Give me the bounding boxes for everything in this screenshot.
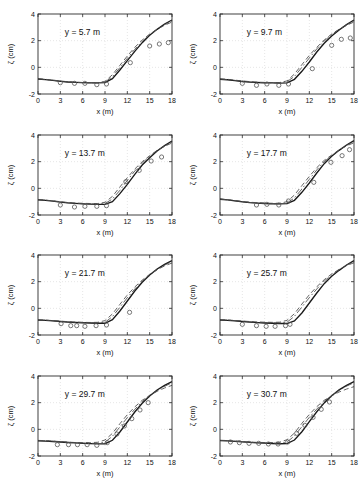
x-tick-label: 15	[328, 218, 336, 225]
y-tick-label: 2	[213, 399, 217, 406]
panel-annotation: y = 21.7 m	[65, 268, 105, 278]
x-tick-label: 15	[328, 97, 336, 104]
x-axis-label: x (m)	[96, 469, 114, 478]
x-tick-label: 3	[58, 338, 62, 345]
tick-marks: 0369121518420-2	[29, 372, 176, 466]
panel-annotation: y = 9.7 m	[247, 27, 282, 37]
data-marker	[75, 324, 79, 328]
y-axis-label: ζ (cm)	[188, 164, 197, 185]
subplot-canvas: 0369121518420-2x (m)ζ (cm)y = 30.7 m	[182, 362, 364, 482]
subplot-1: 0369121518420-2x (m)ζ (cm)y = 5.7 m	[0, 0, 182, 121]
y-tick-label: 0	[31, 184, 35, 191]
series-line-dashed-a	[220, 263, 354, 323]
y-tick-label: 0	[213, 305, 217, 312]
tick-marks: 0369121518420-2	[29, 11, 176, 105]
x-tick-label: 18	[350, 459, 358, 466]
subplot-3: 0369121518420-2x (m)ζ (cm)y = 13.7 m	[0, 121, 182, 242]
y-axis-label: ζ (cm)	[6, 405, 15, 426]
x-tick-label: 0	[218, 459, 222, 466]
data-marker	[128, 61, 132, 65]
series-line-dashed-a	[220, 22, 354, 83]
y-axis-label: ζ (cm)	[6, 284, 15, 305]
series-line-dashed-a	[38, 263, 172, 322]
y-tick-label: 2	[31, 37, 35, 44]
tick-marks: 0369121518420-2	[29, 131, 176, 225]
x-axis-label: x (m)	[96, 348, 114, 357]
x-tick-label: 9	[285, 218, 289, 225]
marker-group	[58, 41, 170, 87]
x-tick-label: 3	[240, 459, 244, 466]
y-tick-label: -2	[211, 332, 217, 339]
subplot-5: 0369121518420-2x (m)ζ (cm)y = 21.7 m	[0, 241, 182, 362]
tick-marks: 0369121518420-2	[211, 131, 358, 225]
x-tick-label: 0	[218, 97, 222, 104]
x-tick-label: 3	[240, 97, 244, 104]
y-tick-label: 4	[213, 11, 217, 18]
x-tick-label: 3	[58, 97, 62, 104]
y-tick-label: 2	[213, 158, 217, 165]
x-tick-label: 15	[146, 459, 154, 466]
y-tick-label: 4	[213, 252, 217, 259]
y-axis-label: ζ (cm)	[6, 43, 15, 64]
subplot-4: 0369121518420-2x (m)ζ (cm)y = 17.7 m	[182, 121, 364, 242]
gridlines	[38, 135, 172, 215]
x-tick-label: 18	[350, 97, 358, 104]
data-marker	[127, 310, 131, 314]
y-tick-label: -2	[29, 452, 35, 459]
y-tick-label: 0	[31, 64, 35, 71]
subplot-canvas: 0369121518420-2x (m)ζ (cm)y = 17.7 m	[182, 121, 364, 242]
series-line-dashed-a	[220, 386, 354, 442]
x-tick-label: 3	[240, 218, 244, 225]
x-tick-label: 18	[168, 97, 176, 104]
x-tick-label: 12	[123, 218, 131, 225]
y-tick-label: 0	[213, 64, 217, 71]
data-marker	[273, 324, 277, 328]
x-tick-label: 6	[263, 459, 267, 466]
marker-group	[59, 310, 132, 328]
data-marker	[329, 160, 333, 164]
x-tick-label: 15	[328, 459, 336, 466]
data-marker	[312, 180, 316, 184]
y-tick-label: -2	[211, 91, 217, 98]
x-axis-label: x (m)	[278, 348, 296, 357]
data-marker	[254, 324, 258, 328]
panel-annotation: y = 30.7 m	[247, 388, 287, 398]
x-tick-label: 9	[285, 459, 289, 466]
subplot-7: 0369121518420-2x (m)ζ (cm)y = 29.7 m	[0, 362, 182, 482]
x-tick-label: 12	[123, 338, 131, 345]
y-axis-label: ζ (cm)	[6, 164, 15, 185]
x-tick-label: 6	[81, 459, 85, 466]
data-marker	[327, 399, 331, 403]
x-tick-label: 12	[123, 459, 131, 466]
y-tick-label: 4	[213, 372, 217, 379]
tick-marks: 0369121518420-2	[211, 372, 358, 466]
x-axis-label: x (m)	[96, 228, 114, 237]
x-tick-label: 12	[123, 97, 131, 104]
x-tick-label: 6	[81, 218, 85, 225]
x-tick-label: 15	[146, 97, 154, 104]
x-axis-label: x (m)	[278, 107, 296, 116]
tick-marks: 0369121518420-2	[29, 252, 176, 346]
y-tick-label: 2	[31, 278, 35, 285]
x-tick-label: 12	[305, 459, 313, 466]
subplot-6: 0369121518420-2x (m)ζ (cm)y = 25.7 m	[182, 241, 364, 362]
x-tick-label: 6	[263, 97, 267, 104]
x-tick-label: 9	[103, 459, 107, 466]
data-marker	[340, 153, 344, 157]
y-tick-label: 0	[31, 305, 35, 312]
x-tick-label: 3	[58, 218, 62, 225]
data-marker	[348, 36, 352, 40]
y-tick-label: 2	[31, 399, 35, 406]
x-axis-label: x (m)	[96, 107, 114, 116]
x-tick-label: 3	[240, 338, 244, 345]
y-tick-label: -2	[29, 332, 35, 339]
x-tick-label: 9	[285, 97, 289, 104]
y-tick-label: -2	[29, 91, 35, 98]
data-marker	[310, 67, 314, 71]
series-line-dashed-b	[38, 141, 172, 203]
y-tick-label: 4	[31, 252, 35, 259]
subplot-canvas: 0369121518420-2x (m)ζ (cm)y = 29.7 m	[0, 362, 182, 482]
x-tick-label: 18	[350, 338, 358, 345]
y-tick-label: 4	[31, 131, 35, 138]
tick-marks: 0369121518420-2	[211, 252, 358, 346]
